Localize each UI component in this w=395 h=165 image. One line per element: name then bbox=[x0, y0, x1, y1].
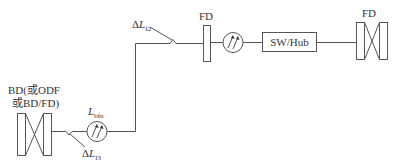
cable-segment-f3 bbox=[52, 132, 88, 136]
delta-f3-leader bbox=[70, 134, 85, 147]
connector-icon bbox=[223, 33, 243, 53]
bd-right-bar bbox=[44, 114, 52, 156]
fd-mid-panel bbox=[204, 26, 211, 62]
switch-hub-label: SW/Hub bbox=[270, 36, 309, 48]
lbfn-label: Lbfn bbox=[87, 105, 104, 120]
connector-icon bbox=[87, 122, 107, 142]
link-diagram: BD(或ODF 或BD/FD) ΔLf3 Lbfn ΔLf2 FD SW/Hub bbox=[0, 0, 395, 165]
fd-right-right-bar bbox=[380, 23, 388, 60]
fd-right-label: FD bbox=[362, 7, 376, 19]
fd-mid-label: FD bbox=[199, 10, 213, 22]
riser-cable bbox=[107, 40, 204, 132]
bd-label-line2: 或BD/FD) bbox=[12, 97, 59, 110]
fd-right-patch-panel bbox=[357, 23, 388, 60]
bd-label-line1: BD(或ODF bbox=[8, 84, 60, 97]
delta-f3-label: ΔLf3 bbox=[82, 147, 102, 162]
fd-right-left-bar bbox=[357, 23, 365, 60]
bd-patch-panel bbox=[18, 114, 52, 156]
delta-f2-leader bbox=[150, 27, 172, 40]
bd-left-bar bbox=[18, 114, 26, 156]
delta-f2-label: ΔLf2 bbox=[132, 18, 152, 33]
